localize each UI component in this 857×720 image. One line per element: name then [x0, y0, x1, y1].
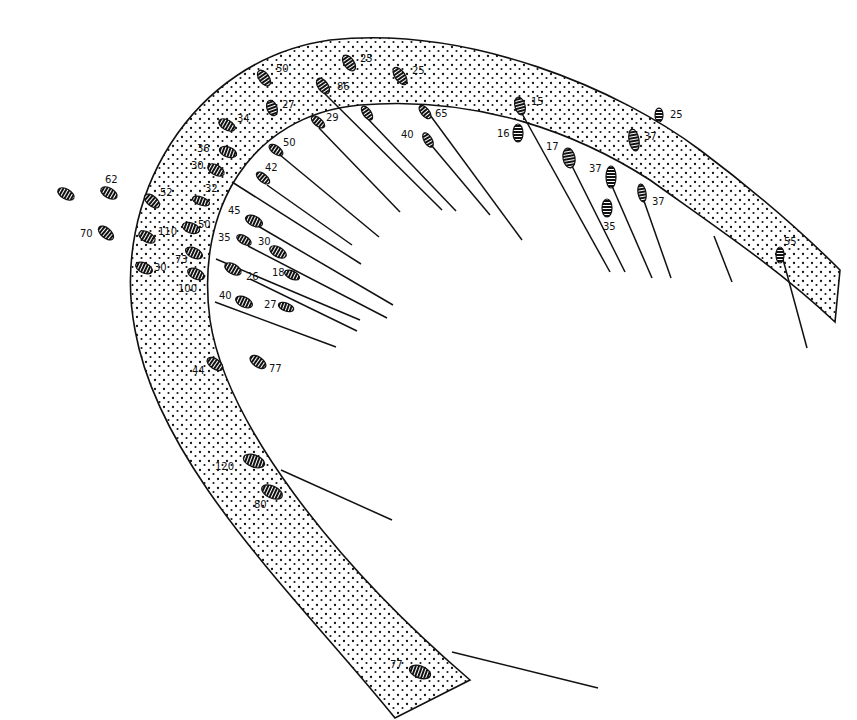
cell-label: 62	[105, 174, 118, 185]
hatched-cell	[421, 131, 436, 149]
cell-label: 30	[154, 262, 167, 273]
cell-label: 40	[401, 129, 414, 140]
cell-label: 30	[258, 236, 271, 247]
cell-label: 40	[219, 290, 232, 301]
cell-label: 77	[390, 659, 403, 670]
hatched-cell	[283, 268, 301, 282]
hatched-cell	[244, 213, 265, 230]
cell-label: 16	[497, 128, 510, 139]
ray-line	[452, 652, 598, 688]
cell-label: 32	[205, 183, 218, 194]
cell-label: 27	[282, 99, 295, 110]
cell-label: 50	[198, 219, 211, 230]
ray-line	[280, 155, 379, 237]
hatched-cell	[417, 103, 433, 120]
cell-label: 73	[175, 254, 188, 265]
cell-label: 26	[246, 271, 259, 282]
hatched-cell	[99, 184, 120, 202]
cell-label: 50	[276, 63, 289, 74]
hatched-cell	[606, 166, 616, 188]
hatched-cell	[277, 301, 295, 314]
ray-line	[267, 185, 352, 245]
cell-label: 65	[435, 108, 448, 119]
cell-label: 25	[360, 53, 373, 64]
ray-line	[644, 201, 671, 278]
cell-label: 44	[192, 365, 205, 376]
cell-label: 45	[228, 205, 241, 216]
cell-label: 17	[546, 141, 559, 152]
cell-label: 110	[158, 226, 177, 237]
diagram-canvas: 5025258627342965401516253717373735363050…	[0, 0, 857, 720]
cell-label: 55	[784, 236, 797, 247]
cell-label: 37	[589, 163, 602, 174]
cell-label: 120	[215, 461, 234, 472]
cell-label: 37	[644, 131, 657, 142]
ray-line	[714, 236, 732, 282]
cell-label: 52	[160, 187, 173, 198]
cell-label: 25	[412, 65, 425, 76]
cell-label: 34	[237, 113, 250, 124]
hatched-cell	[561, 147, 576, 169]
hatched-cell	[602, 199, 612, 217]
cell-label: 77	[269, 363, 282, 374]
hatched-cell	[248, 353, 268, 372]
cell-label: 42	[265, 162, 278, 173]
cell-label: 86	[337, 81, 350, 92]
hatched-cell	[235, 233, 253, 248]
cell-label: 36	[197, 143, 210, 154]
cell-label: 27	[264, 299, 277, 310]
cell-label: 50	[283, 137, 296, 148]
arched-band-figure: 5025258627342965401516253717373735363050…	[0, 0, 857, 720]
hatched-cell	[359, 104, 375, 122]
cell-label: 30	[191, 160, 204, 171]
hatched-cell	[56, 185, 77, 203]
cell-label: 25	[670, 109, 683, 120]
hatched-cell	[636, 183, 647, 202]
cell-label: 35	[603, 221, 616, 232]
cell-label: 100	[178, 283, 197, 294]
hatched-cell	[655, 108, 663, 122]
cell-label: 15	[531, 96, 544, 107]
hatched-cell	[234, 294, 255, 311]
hatched-cell	[96, 223, 116, 242]
cell-label: 80	[254, 499, 267, 510]
cell-label: 70	[80, 228, 93, 239]
cell-label: 29	[326, 112, 339, 123]
cell-label: 37	[652, 196, 665, 207]
hatched-cell	[776, 247, 784, 263]
hatched-cell	[513, 124, 523, 142]
cell-label: 18	[272, 267, 285, 278]
hatched-cell	[309, 114, 326, 130]
cell-label: 35	[218, 232, 231, 243]
stippled-band	[130, 38, 840, 718]
